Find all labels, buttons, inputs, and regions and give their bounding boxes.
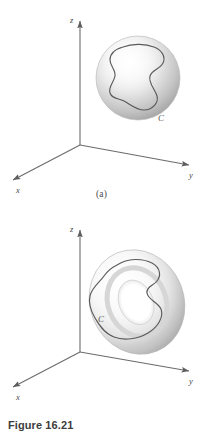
y-axis-label-b: y (188, 376, 193, 386)
figure-container: z y x C (a) (0, 0, 203, 439)
panel-a-sphere: z y x C (a) (0, 0, 203, 210)
x-axis-a (13, 145, 80, 180)
figure-caption: Figure 16.21 (8, 419, 73, 431)
panel-a-diagram: z y x C (0, 0, 203, 210)
sub-label-a: (a) (0, 189, 203, 199)
y-axis-b (80, 352, 189, 371)
x-axis-label-b: x (15, 392, 20, 402)
y-axis-a (80, 145, 189, 165)
curve-c-label-a: C (158, 113, 165, 123)
curve-c-label-b: C (98, 314, 105, 324)
x-axis-b (13, 352, 80, 387)
z-axis-label-b: z (69, 224, 74, 234)
sphere-surface (96, 36, 180, 120)
y-axis-label-a: y (188, 170, 193, 180)
z-axis-label-a: z (69, 15, 74, 25)
panel-b-diagram: z y x C (0, 210, 203, 439)
panel-b-torus: z y x C (b) (0, 210, 203, 439)
torus-surface (74, 235, 201, 368)
